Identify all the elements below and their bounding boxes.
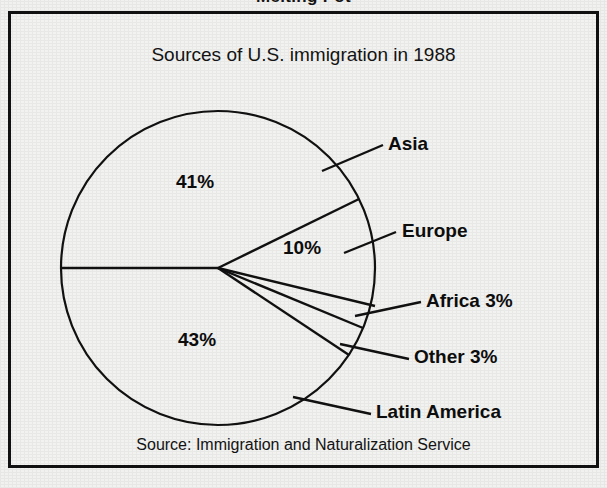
pie-label-other: Other 3% [414, 346, 497, 368]
pie-value-europe: 10% [283, 237, 321, 259]
publication-headline: Melting Pot [0, 0, 607, 7]
leader-line-europe [344, 232, 396, 253]
chart-frame: Sources of U.S. immigration in 1988 41% … [8, 11, 599, 468]
pie-value-latin-america: 43% [178, 329, 216, 351]
pie-label-latin-america: Latin America [376, 401, 501, 423]
pie-label-europe: Europe [402, 220, 467, 242]
pie-value-asia: 41% [176, 171, 214, 193]
leader-line-latin [293, 397, 371, 414]
pie-label-africa: Africa 3% [426, 290, 513, 312]
slice-divider-other-latin [218, 268, 349, 355]
source-note: Source: Immigration and Naturalization S… [11, 436, 596, 454]
pie-label-asia: Asia [388, 133, 428, 155]
